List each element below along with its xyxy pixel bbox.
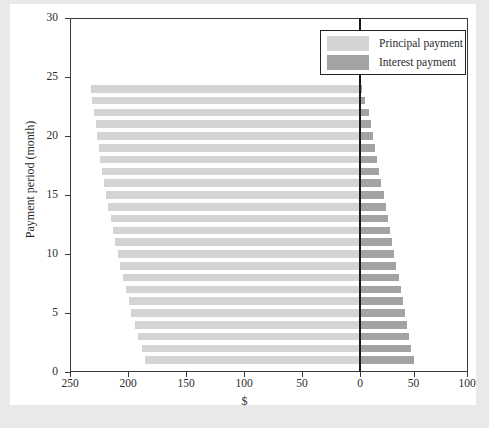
bar-principal-month-8 [123, 274, 360, 282]
legend-item-interest: Interest payment [327, 55, 461, 71]
x-axis-title: $ [0, 394, 489, 409]
plot-frame-right [467, 18, 468, 372]
bar-principal-month-22 [94, 109, 360, 117]
bar-interest-month-1 [360, 356, 414, 364]
bar-interest-month-19 [360, 144, 375, 152]
bar-interest-month-11 [360, 238, 392, 246]
y-axis-title: Payment period (month) [23, 10, 38, 350]
legend-label-principal: Principal payment [379, 36, 463, 51]
x-tick-label-4: 50 [282, 378, 322, 390]
bar-principal-month-14 [108, 203, 360, 211]
x-tick-label-3: 100 [224, 378, 264, 390]
bar-interest-month-13 [360, 215, 388, 223]
bar-interest-month-20 [360, 132, 373, 140]
bar-interest-month-2 [360, 345, 411, 353]
y-tick-25 [65, 77, 70, 78]
x-tick-label-2: 150 [166, 378, 206, 390]
bar-interest-month-6 [360, 297, 403, 305]
x-tick-label-6: 50 [394, 378, 434, 390]
bar-interest-month-7 [360, 286, 401, 294]
bar-interest-month-14 [360, 203, 386, 211]
bar-principal-month-11 [115, 238, 360, 246]
bar-principal-month-16 [104, 179, 360, 187]
y-tick-10 [65, 254, 70, 255]
bar-principal-month-4 [135, 321, 360, 329]
bar-principal-month-2 [142, 345, 360, 353]
x-tick-label-7: 100 [447, 378, 487, 390]
bar-principal-month-6 [129, 297, 360, 305]
x-tick-label-5: 0 [340, 378, 380, 390]
bar-interest-month-10 [360, 250, 394, 258]
y-tick-30 [65, 18, 70, 19]
bar-principal-month-24 [91, 85, 360, 93]
bar-principal-month-17 [102, 168, 360, 176]
chart-paper: 051015202530 25020015010050050100 Paymen… [10, 4, 476, 405]
legend-swatch-interest [327, 55, 369, 70]
bar-interest-month-5 [360, 309, 405, 317]
x-tick-label-1: 200 [108, 378, 148, 390]
bar-principal-month-3 [138, 333, 360, 341]
chart-figure: 051015202530 25020015010050050100 Paymen… [0, 0, 489, 428]
bar-principal-month-12 [113, 227, 360, 235]
bar-principal-month-5 [131, 309, 360, 317]
bar-interest-month-17 [360, 168, 379, 176]
bar-principal-month-1 [145, 356, 360, 364]
y-tick-15 [65, 195, 70, 196]
bar-interest-month-16 [360, 179, 381, 187]
bar-principal-month-18 [100, 156, 360, 164]
bar-principal-month-13 [111, 215, 360, 223]
bar-principal-month-15 [106, 191, 360, 199]
bar-interest-month-8 [360, 274, 399, 282]
bar-principal-month-20 [97, 132, 360, 140]
bar-principal-month-9 [120, 262, 360, 270]
bar-principal-month-19 [99, 144, 360, 152]
bar-interest-month-9 [360, 262, 396, 270]
bar-interest-month-3 [360, 333, 409, 341]
bar-interest-month-18 [360, 156, 377, 164]
legend-swatch-principal [327, 36, 369, 51]
bar-interest-month-4 [360, 321, 407, 329]
bar-interest-month-12 [360, 227, 390, 235]
bar-principal-month-10 [118, 250, 360, 258]
x-tick-label-0: 250 [50, 378, 90, 390]
bar-principal-month-23 [92, 97, 360, 105]
bar-interest-month-21 [360, 120, 371, 128]
bar-interest-month-22 [360, 109, 369, 117]
bar-principal-month-7 [126, 286, 360, 294]
legend-label-interest: Interest payment [379, 55, 456, 70]
plot-frame-top [70, 18, 467, 19]
y-tick-5 [65, 313, 70, 314]
bar-principal-month-21 [96, 120, 360, 128]
chart-legend: Principal payment Interest payment [320, 30, 466, 75]
legend-item-principal: Principal payment [327, 36, 461, 52]
y-tick-20 [65, 136, 70, 137]
y-tick-label-0: 0 [18, 366, 58, 378]
bar-interest-month-15 [360, 191, 384, 199]
